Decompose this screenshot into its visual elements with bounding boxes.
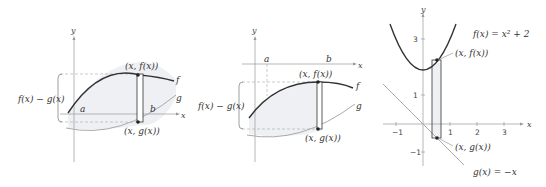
panel-3: y x −1 1 2 3 3 1 −1 (x, f(x)) (x, g(x)) … [383,5,532,177]
panel-1: y x f(x) − g(x) f g (x, f(x)) (x, g(x)) … [17,26,186,162]
y-arrow-icon [254,36,257,40]
point-bottom-label: (x, g(x)) [305,133,341,143]
point-top [316,80,320,84]
height-label: f(x) − g(x) [197,101,245,111]
x-tick-3: 3 [502,128,507,137]
shaded-region [432,63,441,137]
x-axis-label: x [181,111,186,120]
y-tick-3: 3 [413,35,418,44]
y-axis-label: y [251,26,257,35]
y-axis-label: y [420,5,426,14]
x-tick-1: 1 [448,128,453,137]
point-bottom [136,120,140,124]
y-tick-1: 1 [413,91,418,100]
x-arrow-icon [353,63,357,66]
x-axis-label: x [527,120,532,129]
point-top [136,73,140,77]
leader-line-bottom [438,138,453,146]
curve-f-label: f [355,81,361,91]
point-top-label: (x, f(x)) [455,48,489,58]
g-equation-label: g(x) = −x [473,167,517,177]
bound-b-label: b [150,104,156,114]
curve-g-label: g [176,93,182,103]
point-bottom-label: (x, g(x)) [124,126,160,136]
x-arrow-icon [176,113,180,116]
height-label: f(x) − g(x) [17,94,65,104]
curve-f-label: f [175,75,181,85]
curve-g-label: g [356,101,362,111]
point-top-label: (x, f(x)) [299,69,333,79]
bound-a-label: a [264,54,269,64]
representative-rectangle [137,74,143,122]
bound-a-label: a [80,104,85,114]
point-bottom [316,127,320,131]
y-axis-label: y [70,26,76,35]
shaded-region [249,82,322,136]
shaded-region [68,62,176,129]
panel-2: y x f(x) − g(x) f g (x, f(x)) (x, g(x)) … [197,26,363,162]
curve-g [383,84,464,165]
x-tick-neg1: −1 [392,128,403,137]
representative-rectangle [317,82,322,129]
point-bottom-label: (x, g(x)) [455,142,491,152]
x-arrow-icon [520,123,524,126]
y-tick-neg1: −1 [410,148,421,157]
point-top-label: (x, f(x)) [125,61,159,71]
x-tick-2: 2 [475,128,480,137]
y-arrow-icon [73,36,76,40]
f-equation-label: f(x) = x² + 2 [472,29,530,39]
bound-b-label: b [326,54,332,64]
x-axis-label: x [358,61,363,70]
